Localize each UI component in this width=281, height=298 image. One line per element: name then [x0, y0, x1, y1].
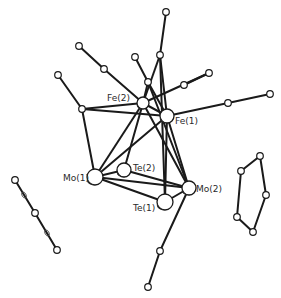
label-fe1: Fe(1)	[175, 116, 198, 126]
label-fe2: Fe(2)	[107, 93, 130, 103]
light-atom	[163, 9, 170, 16]
bond	[58, 75, 82, 109]
bond	[82, 109, 95, 177]
bond	[160, 12, 166, 55]
light-atom	[257, 153, 264, 160]
bond	[35, 213, 57, 250]
bond	[260, 156, 266, 195]
bond	[167, 103, 228, 116]
light-atom	[32, 210, 39, 217]
bond	[237, 171, 241, 217]
light-atom	[54, 247, 61, 254]
bond	[82, 103, 143, 109]
bond	[148, 251, 160, 287]
light-atom	[79, 106, 86, 113]
light-atom	[206, 70, 213, 77]
bond	[135, 57, 148, 82]
light-atom	[157, 52, 164, 59]
molecular-structure-diagram: Fe(2)Fe(1)Mo(1)Te(2)Mo(2)Te(1)	[0, 0, 281, 298]
light-atom	[145, 284, 152, 291]
atom-mo1	[87, 169, 103, 185]
light-atom	[101, 66, 108, 73]
light-atom	[250, 229, 257, 236]
light-atom	[234, 214, 241, 221]
bond	[253, 195, 266, 232]
light-atom	[55, 72, 62, 79]
bond	[79, 46, 104, 69]
bond	[15, 180, 35, 213]
atom-te2	[117, 163, 131, 177]
light-atom	[76, 43, 83, 50]
light-atom	[12, 177, 19, 184]
label-mo2: Mo(2)	[196, 184, 222, 194]
atom-fe2	[137, 97, 149, 109]
light-atom	[132, 54, 139, 61]
atom-te1	[157, 194, 173, 210]
bond	[228, 94, 270, 103]
atom-fe1	[160, 109, 174, 123]
label-mo1: Mo(1)	[63, 173, 89, 183]
atom-mo2	[182, 181, 196, 195]
light-atom	[238, 168, 245, 175]
light-atom	[263, 192, 270, 199]
bond	[184, 73, 209, 85]
light-atom	[225, 100, 232, 107]
bonds-layer	[15, 12, 270, 287]
label-te2: Te(2)	[132, 163, 155, 173]
light-atom	[181, 82, 188, 89]
light-atom	[145, 79, 152, 86]
light-atoms-layer	[12, 9, 274, 291]
label-te1: Te(1)	[132, 203, 155, 213]
light-atom	[267, 91, 274, 98]
light-atom	[157, 248, 164, 255]
